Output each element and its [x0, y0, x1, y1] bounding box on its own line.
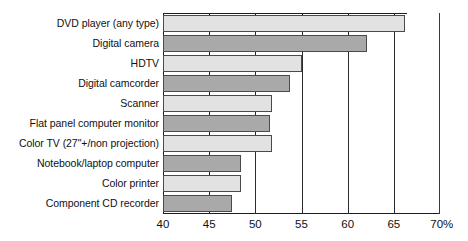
bar-category-label: Color TV (27"+/non projection)	[19, 137, 159, 149]
bar	[163, 75, 290, 92]
bar-row: HDTV	[0, 55, 468, 72]
bar-category-label: Component CD recorder	[46, 197, 159, 209]
bar	[163, 55, 302, 72]
bar	[163, 95, 272, 112]
bar	[163, 15, 405, 32]
x-tick-label-40: 40	[157, 217, 170, 231]
bar-category-label: Scanner	[120, 97, 159, 109]
bar	[163, 175, 241, 192]
bar-row: Color printer	[0, 175, 468, 192]
bar	[163, 195, 232, 212]
bar-rows: DVD player (any type)Digital cameraHDTVD…	[0, 13, 468, 214]
bar-category-label: Color printer	[102, 177, 159, 189]
bar	[163, 155, 241, 172]
x-axis-tick-labels: 40455055606570%	[0, 217, 468, 233]
bar-row: Component CD recorder	[0, 195, 468, 212]
x-tick-label-60: 60	[341, 217, 354, 231]
x-tick-label-65: 65	[387, 217, 400, 231]
bar-category-label: Digital camera	[93, 37, 159, 49]
bar-row: Notebook/laptop computer	[0, 155, 468, 172]
bar-row: Flat panel computer monitor	[0, 115, 468, 132]
bar	[163, 35, 367, 52]
bar	[163, 135, 272, 152]
bar-row: Digital camcorder	[0, 75, 468, 92]
x-tick-label-55: 55	[295, 217, 308, 231]
bar-row: Color TV (27"+/non projection)	[0, 135, 468, 152]
bar-category-label: DVD player (any type)	[57, 17, 159, 29]
bar-row: DVD player (any type)	[0, 15, 468, 32]
bar-category-label: HDTV	[131, 57, 159, 69]
bar-row: Digital camera	[0, 35, 468, 52]
bar-chart: DVD player (any type)Digital cameraHDTVD…	[0, 0, 468, 241]
bar-category-label: Digital camcorder	[78, 77, 159, 89]
bar-category-label: Flat panel computer monitor	[30, 117, 159, 129]
x-tick-label-70: 70%	[430, 217, 453, 231]
bar-category-label: Notebook/laptop computer	[37, 157, 159, 169]
bar	[163, 115, 270, 132]
x-tick-label-45: 45	[203, 217, 216, 231]
bar-row: Scanner	[0, 95, 468, 112]
x-tick-label-50: 50	[249, 217, 262, 231]
